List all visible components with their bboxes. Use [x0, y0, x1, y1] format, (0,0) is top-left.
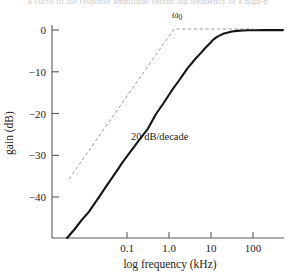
y-axis-title: gain (dB): [3, 111, 15, 155]
x-tick-label-1p0: 1.0: [162, 243, 176, 254]
x-axis-ticks: [127, 232, 253, 238]
x-tick-label-10: 10: [206, 243, 217, 254]
slope-annotation-label: 20 dB/decade: [131, 132, 188, 143]
omega-subscript: 0: [179, 13, 183, 22]
y-tick-label-minus10: −10: [17, 66, 46, 77]
y-tick-label-0: 0: [24, 25, 46, 36]
corner-frequency-annotation: ω0: [172, 10, 182, 22]
x-tick-label-0p1: 0.1: [120, 243, 134, 254]
x-axis-title: log frequency (kHz): [123, 259, 216, 271]
y-tick-label-minus40: −40: [17, 192, 46, 203]
x-tick-label-100: 100: [245, 243, 262, 254]
y-axis-ticks: [52, 30, 59, 197]
asymptote-dashed-line: [69, 29, 253, 179]
bode-plot-figure: a curve of the response amplitude versus…: [0, 0, 288, 280]
y-tick-label-minus20: −20: [17, 108, 46, 119]
omega-symbol: ω: [172, 9, 179, 20]
y-tick-label-minus30: −30: [17, 150, 46, 161]
